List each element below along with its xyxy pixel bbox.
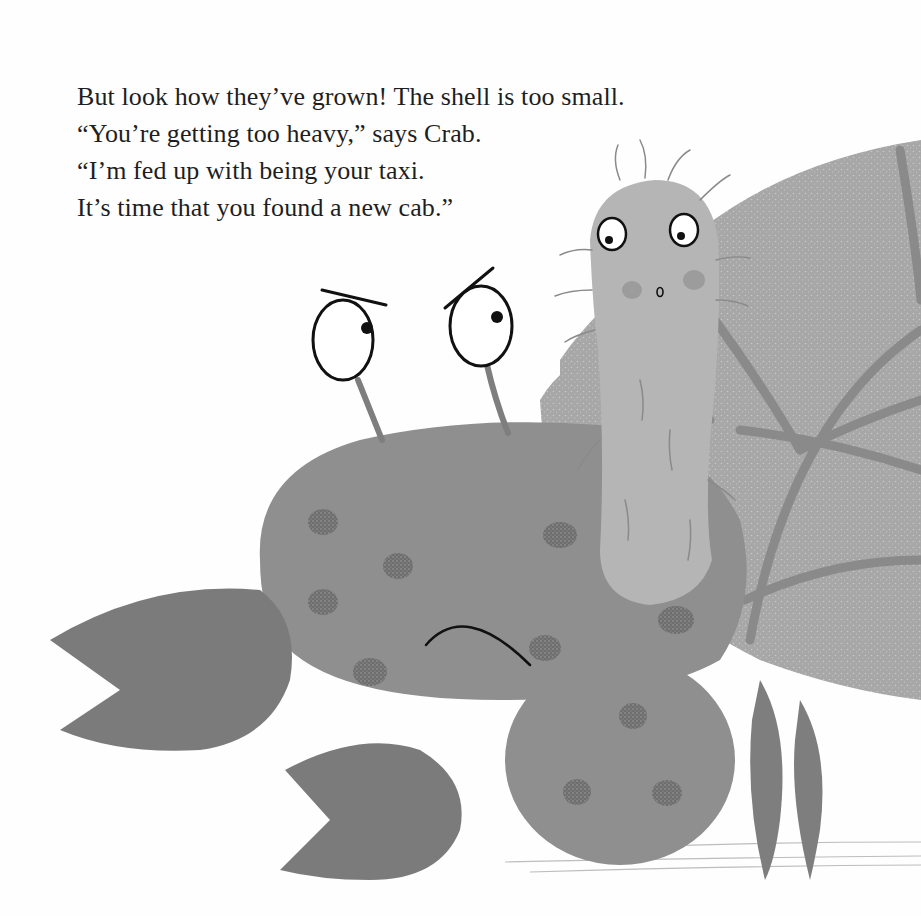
crab-eyes bbox=[313, 268, 512, 380]
crab-legs bbox=[750, 680, 822, 880]
story-line-1: But look how they’ve grown! The shell is… bbox=[77, 78, 625, 115]
story-line-2: “You’re getting too heavy,” says Crab. bbox=[77, 115, 625, 152]
story-line-4: It’s time that you found a new cab.” bbox=[77, 189, 625, 226]
book-page: But look how they’ve grown! The shell is… bbox=[0, 0, 921, 916]
story-text: But look how they’ve grown! The shell is… bbox=[77, 78, 625, 226]
story-line-3: “I’m fed up with being your taxi. bbox=[77, 152, 625, 189]
